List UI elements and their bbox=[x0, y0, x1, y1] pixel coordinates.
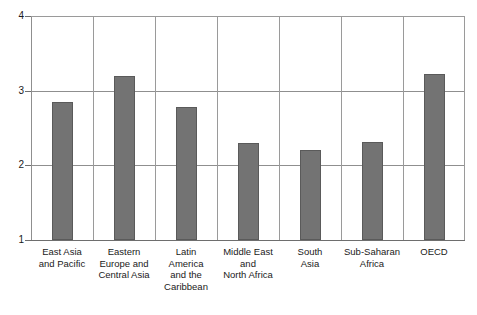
y-tick-1 bbox=[25, 240, 31, 241]
category-separator bbox=[403, 16, 404, 240]
bar bbox=[300, 150, 321, 240]
bar-chart: East Asia and PacificEastern Europe and … bbox=[0, 0, 477, 315]
category-separator bbox=[93, 16, 94, 240]
bar bbox=[424, 74, 445, 240]
plot-area bbox=[31, 16, 465, 240]
y-tick-4 bbox=[25, 16, 31, 17]
bar bbox=[176, 107, 197, 240]
y-axis-label-3: 3 bbox=[10, 86, 24, 96]
bar bbox=[362, 142, 383, 240]
bar bbox=[238, 143, 259, 240]
gridline-1 bbox=[31, 240, 465, 241]
x-axis-category-labels: East Asia and PacificEastern Europe and … bbox=[31, 246, 465, 312]
x-axis-label: OECD bbox=[397, 246, 471, 258]
bar bbox=[114, 76, 135, 240]
plot-right-edge bbox=[464, 16, 465, 240]
y-axis-label-4: 4 bbox=[10, 11, 24, 21]
clipped-header-text bbox=[8, 0, 208, 6]
y-tick-3 bbox=[25, 91, 31, 92]
gridline-3 bbox=[31, 91, 465, 92]
category-separator bbox=[341, 16, 342, 240]
y-axis-label-1: 1 bbox=[10, 235, 24, 245]
category-separator bbox=[155, 16, 156, 240]
y-tick-2 bbox=[25, 165, 31, 166]
y-axis-label-2: 2 bbox=[10, 160, 24, 170]
gridline-4 bbox=[31, 16, 465, 17]
category-separator bbox=[279, 16, 280, 240]
category-separator bbox=[217, 16, 218, 240]
bar bbox=[52, 102, 73, 240]
